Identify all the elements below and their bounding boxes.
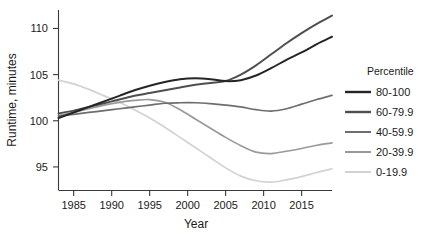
y-tick-label: 105 bbox=[30, 69, 48, 81]
x-tick-label: 2010 bbox=[251, 199, 275, 211]
legend-label-20-39-9: 20-39.9 bbox=[376, 146, 413, 158]
series-line-60-79-9 bbox=[59, 16, 333, 114]
legend-label-0-19-9: 0-19.9 bbox=[376, 166, 407, 178]
series-lines bbox=[59, 16, 333, 183]
legend: 80-10060-79.940-59.920-39.90-19.9 bbox=[345, 86, 413, 178]
y-tick-label: 95 bbox=[36, 161, 48, 173]
x-tick-label: 1985 bbox=[61, 199, 85, 211]
legend-label-80-100: 80-100 bbox=[376, 86, 410, 98]
line-chart: 95100105110 1985199019952000200520102015… bbox=[0, 0, 430, 241]
y-tick-label: 100 bbox=[30, 115, 48, 127]
x-tick-label: 2015 bbox=[289, 199, 313, 211]
series-line-0-19-9 bbox=[59, 80, 333, 182]
x-axis-ticks: 1985199019952000200520102015 bbox=[61, 191, 313, 212]
x-axis-title: Year bbox=[184, 217, 208, 231]
x-tick-label: 2005 bbox=[213, 199, 237, 211]
legend-label-60-79-9: 60-79.9 bbox=[376, 106, 413, 118]
y-axis-title: Runtime, minutes bbox=[5, 53, 19, 146]
chart-canvas: 95100105110 1985199019952000200520102015… bbox=[0, 0, 430, 241]
legend-title: Percentile bbox=[367, 65, 414, 77]
x-tick-label: 1990 bbox=[99, 199, 123, 211]
y-axis-ticks: 95100105110 bbox=[30, 22, 59, 172]
x-tick-label: 2000 bbox=[175, 199, 199, 211]
x-tick-label: 1995 bbox=[137, 199, 161, 211]
y-tick-label: 110 bbox=[30, 22, 48, 34]
legend-label-40-59-9: 40-59.9 bbox=[376, 126, 413, 138]
